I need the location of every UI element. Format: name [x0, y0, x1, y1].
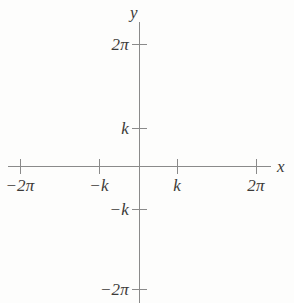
x-tick-mark-2pi: [256, 159, 257, 174]
y-tick-mark-k: [132, 128, 147, 129]
y-tick-label-neg-2pi: −2π: [100, 281, 129, 298]
x-tick-label-k: k: [173, 177, 181, 194]
y-axis-line: [139, 22, 140, 303]
x-tick-label-neg-2pi: −2π: [5, 177, 34, 194]
y-tick-label-neg-k: −k: [110, 201, 129, 218]
x-tick-label-2pi: 2π: [247, 177, 264, 194]
x-tick-mark-neg-k: [99, 159, 100, 174]
x-axis-label: x: [277, 158, 285, 175]
y-tick-mark-neg-k: [132, 209, 147, 210]
coordinate-axes-figure: −2π −k k 2π 2π k −k −2π x y: [0, 0, 294, 303]
y-tick-label-k: k: [121, 120, 129, 137]
x-tick-label-neg-k: −k: [89, 177, 108, 194]
x-tick-mark-neg-2pi: [20, 159, 21, 174]
y-axis-label: y: [130, 4, 138, 21]
x-tick-mark-k: [177, 159, 178, 174]
y-tick-label-2pi: 2π: [112, 36, 129, 53]
y-tick-mark-neg-2pi: [132, 289, 147, 290]
y-tick-mark-2pi: [132, 44, 147, 45]
